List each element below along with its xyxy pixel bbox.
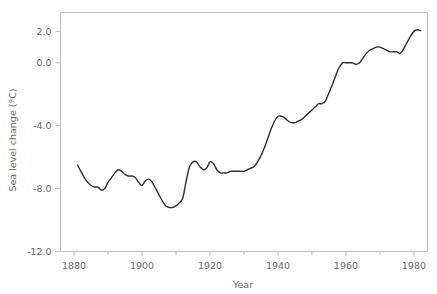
x-axis-ticks: 188019001920194019601980 [62,252,426,271]
y-tick-label: -8.0 [33,183,52,194]
x-tick-label: 1880 [62,260,86,271]
x-tick-label: 1940 [266,260,290,271]
y-tick-label: -4.0 [33,120,52,131]
y-tick-label: 2.0 [36,26,51,37]
x-axis-title: Year [232,279,253,290]
x-tick-label: 1920 [198,260,222,271]
y-tick-label: 0.0 [36,57,51,68]
x-tick-label: 1960 [334,260,358,271]
x-tick-label: 1900 [130,260,154,271]
x-tick-label: 1980 [402,260,426,271]
y-axis-ticks: 2.00.0-4.0-8.0-12.0 [27,26,61,257]
y-tick-label: -12.0 [27,246,52,257]
sea-level-line-chart: 188019001920194019601980 2.00.0-4.0-8.0-… [0,0,437,294]
series-line [77,30,420,208]
y-axis-title: Sea level change (°C) [7,88,18,191]
chart-canvas: 188019001920194019601980 2.00.0-4.0-8.0-… [0,0,437,294]
data-series-group [77,30,420,208]
